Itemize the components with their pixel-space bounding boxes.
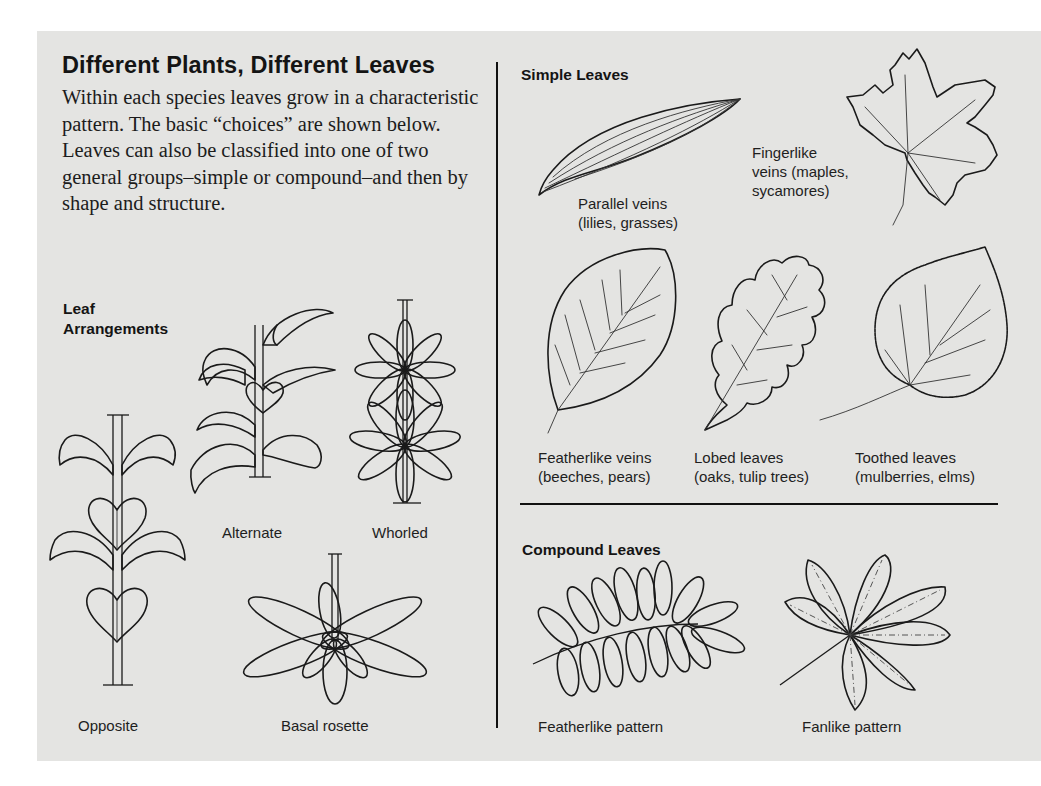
alternate-label: Alternate: [222, 523, 282, 542]
alternate-arrangement-icon: [185, 305, 345, 505]
label-line-2: (oaks, tulip trees): [694, 467, 809, 486]
label-line-2: (mulberries, elms): [855, 467, 975, 486]
parallel-veins-label: Parallel veins (lilies, grasses): [578, 194, 678, 232]
opposite-arrangement-icon: [45, 410, 190, 695]
lobed-leaves-label: Lobed leaves (oaks, tulip trees): [694, 448, 809, 486]
label-line-2: veins (maples,: [752, 162, 849, 181]
label-line-1: Fingerlike: [752, 143, 849, 162]
label-line-3: sycamores): [752, 181, 849, 200]
toothed-leaf-icon: [815, 245, 1015, 435]
pinnate-compound-leaf-icon: [528, 572, 743, 702]
column-divider: [496, 62, 498, 728]
whorled-label: Whorled: [372, 523, 428, 542]
featherlike-veins-label: Featherlike veins (beeches, pears): [538, 448, 651, 486]
parallel-vein-leaf-icon: [535, 95, 745, 205]
intro-paragraph: Within each species leaves grow in a cha…: [62, 84, 482, 217]
label-line-1: Featherlike veins: [538, 448, 651, 467]
heading-line-2: Arrangements: [63, 319, 168, 339]
leaf-arrangements-heading: Leaf Arrangements: [63, 299, 168, 339]
simple-leaves-heading: Simple Leaves: [521, 65, 629, 85]
fanlike-pattern-label: Fanlike pattern: [802, 717, 901, 736]
label-line-1: Parallel veins: [578, 194, 678, 213]
label-line-2: (beeches, pears): [538, 467, 651, 486]
section-divider: [520, 503, 998, 505]
label-line-1: Lobed leaves: [694, 448, 809, 467]
toothed-leaves-label: Toothed leaves (mulberries, elms): [855, 448, 975, 486]
fingerlike-veins-label: Fingerlike veins (maples, sycamores): [752, 143, 849, 200]
lobed-leaf-icon: [697, 245, 832, 435]
label-line-2: (lilies, grasses): [578, 213, 678, 232]
basal-rosette-icon: [260, 552, 410, 702]
featherlike-pattern-label: Featherlike pattern: [538, 717, 663, 736]
basal-rosette-label: Basal rosette: [281, 716, 369, 735]
heading-line-1: Leaf: [63, 299, 168, 319]
page-title: Different Plants, Different Leaves: [62, 52, 435, 79]
palmate-vein-leaf-icon: [845, 45, 1005, 225]
palmate-compound-leaf-icon: [775, 530, 975, 715]
compound-leaves-heading: Compound Leaves: [522, 540, 661, 560]
opposite-label: Opposite: [78, 716, 138, 735]
label-line-1: Toothed leaves: [855, 448, 975, 467]
whorled-arrangement-icon: [343, 298, 463, 508]
pinnate-vein-leaf-icon: [540, 245, 685, 435]
